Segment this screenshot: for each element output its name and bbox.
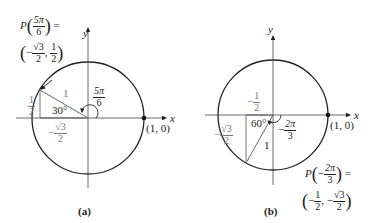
leg-den: 2	[28, 107, 35, 118]
caption-b: (b)	[264, 206, 277, 217]
caption-a: (a)	[78, 206, 91, 217]
p-label: P	[20, 19, 27, 31]
hypotenuse-label-b: 1	[264, 140, 270, 151]
equals-sign: =	[54, 19, 60, 31]
vertical-leg-label-a: 12	[28, 95, 35, 117]
leg-num: 1	[253, 91, 260, 103]
point-coords-b: (−12, −√32)	[302, 190, 351, 212]
coord-y-den: 2	[336, 202, 343, 213]
arg-den: 6	[35, 27, 42, 38]
arg-num: 5π	[33, 15, 45, 27]
point-label-b: (1, 0)	[330, 120, 354, 131]
reference-angle-b: 60°	[251, 118, 266, 129]
angle-num: 5π	[93, 86, 105, 98]
coord-x-den: 2	[314, 202, 321, 213]
leg-den: 2	[57, 134, 64, 145]
horizontal-leg-label-b: −√32	[214, 124, 233, 146]
coord-x-den: 2	[35, 54, 42, 65]
point-label-a: (1, 0)	[146, 123, 170, 134]
p-label: P	[305, 167, 312, 179]
leg-den: 2	[223, 136, 230, 147]
y-axis-label-b: y	[268, 24, 273, 35]
point-expression-a: P(5π6) =	[20, 15, 60, 37]
horizontal-leg-label-a: −√32	[48, 122, 67, 144]
point-coords-a: (−√32, 12)	[20, 42, 63, 64]
arg-den: 3	[326, 175, 333, 186]
equals-sign: =	[345, 167, 351, 179]
leg-den: 2	[253, 103, 260, 114]
y-axis-label-a: y	[83, 28, 88, 39]
point-1-0-a	[142, 116, 147, 121]
leg-num: √3	[220, 124, 233, 136]
point-expression-b: P(−2π3) =	[305, 163, 351, 185]
x-axis-label-a: x	[170, 113, 175, 124]
angle-label-b: −2π3	[278, 119, 296, 141]
angle-den: 6	[96, 98, 103, 109]
leg-num: 1	[28, 95, 35, 107]
coord-x-num: √3	[32, 42, 45, 54]
angle-num: 2π	[284, 119, 296, 131]
vertical-leg-label-b: −12	[247, 91, 260, 113]
point-1-0-b	[326, 113, 331, 118]
coord-x-num: 1	[314, 190, 321, 202]
arg-num: 2π	[324, 163, 336, 175]
angle-label-a: 5π6	[93, 86, 105, 108]
reference-angle-a: 30°	[52, 105, 67, 116]
coord-y-num: √3	[333, 190, 346, 202]
leg-num: √3	[54, 122, 67, 134]
hypotenuse-label-a: 1	[63, 88, 69, 99]
angle-den: 3	[287, 131, 294, 142]
x-axis-label-b: x	[354, 110, 359, 121]
